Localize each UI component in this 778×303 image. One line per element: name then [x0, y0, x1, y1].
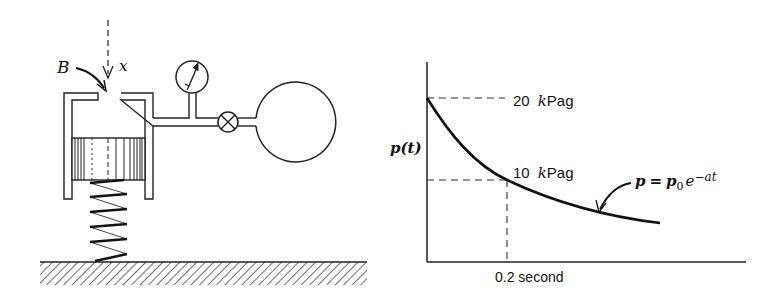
pressure-gauge-icon [176, 61, 208, 93]
b-pointer-arrow [76, 68, 106, 91]
spring [90, 180, 127, 261]
x-label: x [119, 57, 128, 75]
pressure-decay-chart: 20kPag 10kPag p(t) 0.2 second p=p0e−at [390, 62, 746, 285]
ground [40, 262, 367, 285]
b-label: B [56, 57, 70, 77]
valve-icon [218, 112, 238, 132]
y-axis-label: p(t) [390, 139, 422, 157]
label-10kpag: 10kPag [513, 164, 573, 182]
spherical-tank [256, 82, 336, 162]
equation-label: p=p0e−at [635, 170, 717, 193]
figure: B x [0, 0, 778, 303]
displacement-arrow [103, 20, 113, 78]
piston-cylinder-diagram: B x [40, 20, 367, 285]
piston [72, 138, 145, 180]
decay-curve [427, 98, 660, 223]
label-20kpag: 20kPag [513, 92, 573, 110]
pipe [153, 93, 256, 126]
equation-pointer-arrow [596, 183, 631, 212]
x-tick-label: 0.2 second [495, 269, 564, 285]
